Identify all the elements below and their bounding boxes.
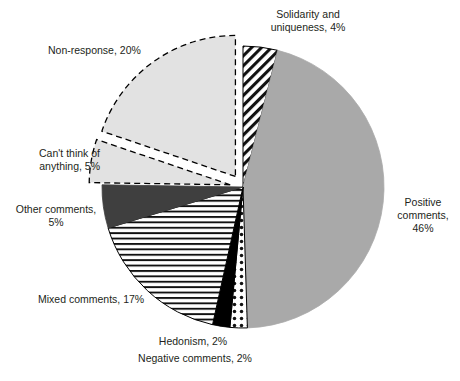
slice-label-other-comments: Other comments, 5% (2, 203, 110, 229)
slice-label-non-response: Non-response, 20% (48, 44, 198, 57)
slice-label-cant-think-of-anything: Can't think of anything, 5% (4, 147, 100, 173)
slice-label-negative-comments: Negative comments, 2% (105, 352, 285, 365)
pie-slice-layer (89, 35, 384, 328)
slice-label-positive-comments: Positive comments, 46% (388, 196, 458, 235)
pie-chart-svg (0, 0, 460, 381)
slice-label-hedonism: Hedonism, 2% (128, 335, 258, 348)
pie-chart: Solidarity and uniqueness, 4% Non-respon… (0, 0, 460, 381)
slice-label-mixed-comments: Mixed comments, 17% (38, 293, 168, 306)
slice-label-solidarity-and-uniqueness: Solidarity and uniqueness, 4% (238, 8, 378, 34)
